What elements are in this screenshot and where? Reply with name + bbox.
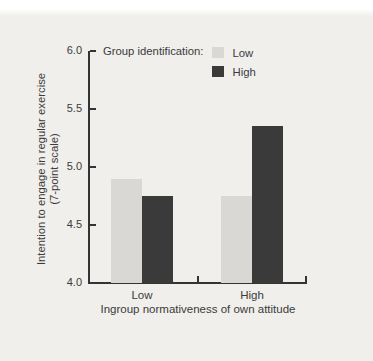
x-category-label: High bbox=[222, 289, 282, 301]
legend-entry-low: Low bbox=[212, 43, 255, 62]
y-axis-title-line1: Intention to engage in regular exercise bbox=[35, 73, 47, 265]
legend-label-low: Low bbox=[232, 47, 253, 59]
y-axis-tick bbox=[90, 50, 96, 52]
x-axis-tick bbox=[197, 276, 199, 282]
x-axis-title: Ingroup normativeness of own attitude bbox=[58, 303, 338, 315]
legend-swatch-low bbox=[212, 47, 224, 58]
exercise-intention-bar-chart: Intention to engage in regular exercise … bbox=[0, 0, 373, 361]
y-tick-label: 6.0 bbox=[54, 44, 82, 57]
y-axis-tick bbox=[90, 224, 96, 226]
bar-low-normativeness-low-identification bbox=[111, 179, 142, 283]
y-tick-label: 4.5 bbox=[54, 218, 82, 231]
bar-low-normativeness-high-identification bbox=[142, 196, 173, 283]
legend-entry-high: High bbox=[212, 62, 255, 81]
bar-high-normativeness-high-identification bbox=[252, 126, 283, 283]
y-axis-tick bbox=[90, 282, 96, 284]
legend-swatch-high bbox=[212, 66, 224, 77]
legend-label-high: High bbox=[232, 66, 255, 78]
y-tick-label: 5.5 bbox=[54, 102, 82, 115]
bar-high-normativeness-low-identification bbox=[221, 196, 252, 283]
y-tick-label: 4.0 bbox=[54, 276, 82, 289]
legend: Group identification: LowHigh bbox=[103, 43, 256, 81]
x-axis-tick bbox=[305, 276, 307, 282]
legend-entries: LowHigh bbox=[212, 43, 255, 81]
y-axis-tick bbox=[90, 108, 96, 110]
x-category-label: Low bbox=[112, 289, 172, 301]
y-tick-label: 5.0 bbox=[54, 160, 82, 173]
y-axis-tick bbox=[90, 166, 96, 168]
legend-title: Group identification: bbox=[103, 43, 203, 60]
